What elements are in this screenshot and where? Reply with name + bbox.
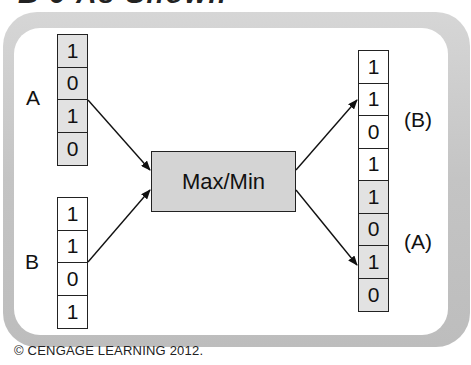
connector-arrows bbox=[0, 0, 471, 365]
arrow-a-to-box bbox=[88, 100, 150, 170]
copyright-caption: © CENGAGE LEARNING 2012. bbox=[14, 343, 203, 358]
arrow-box-to-output-upper bbox=[296, 100, 357, 170]
arrow-b-to-box bbox=[88, 190, 150, 262]
arrow-box-to-output-lower bbox=[296, 190, 357, 265]
